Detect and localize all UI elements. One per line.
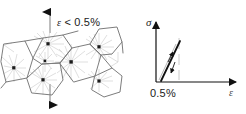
stress-strain-axes — [156, 22, 236, 82]
unloading-direction-arrow — [171, 62, 175, 73]
unloading-guide-line — [159, 44, 176, 80]
strain-axis-symbol: ε — [229, 88, 233, 98]
strain-condition-label: ε < 0.5% — [57, 17, 100, 28]
mesh-node — [97, 45, 100, 48]
figure-canvas — [0, 0, 246, 114]
figure-root: ε < 0.5% σ ε 0.5% — [0, 0, 246, 114]
relation-symbol: < — [61, 16, 74, 28]
cellular-mesh — [1, 27, 123, 97]
mesh-node — [44, 60, 47, 63]
mesh-node — [46, 42, 49, 45]
mesh-node — [41, 78, 44, 81]
mesh-node — [97, 79, 100, 82]
mesh-nodes — [12, 42, 100, 82]
stress-axis-symbol: σ — [146, 17, 151, 28]
strain-limit-annotation: 0.5% — [150, 88, 176, 99]
elastic-loading-curve — [161, 41, 180, 81]
mesh-node — [12, 66, 15, 69]
mesh-node — [69, 60, 72, 63]
strain-threshold-value: 0.5% — [74, 16, 100, 28]
